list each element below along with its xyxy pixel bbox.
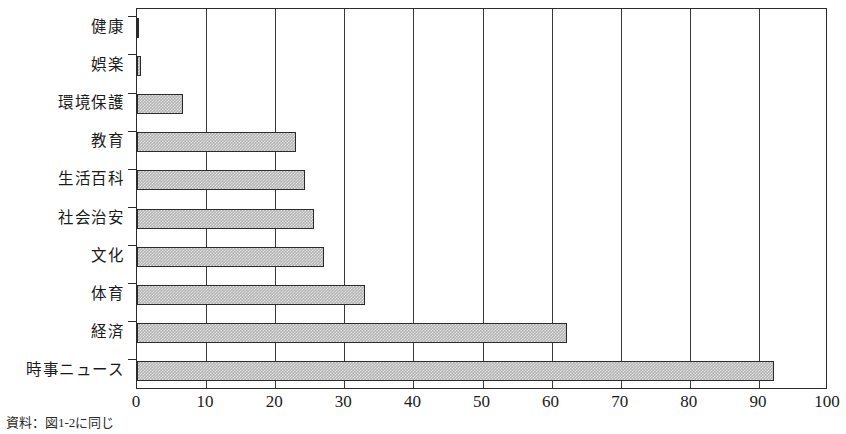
category-tick: [128, 245, 136, 246]
bar-chart-figure: 健康娯楽環境保護教育生活百科社会治安文化体育経済時事ニュース 010203040…: [0, 0, 846, 434]
category-label-時事ニュース: 時事ニュース: [0, 362, 124, 378]
category-label-体育: 体育: [0, 286, 124, 302]
category-tick: [128, 359, 136, 360]
category-label-文化: 文化: [0, 248, 124, 264]
plot-area: [136, 8, 827, 389]
bar-体育: [137, 285, 365, 305]
category-axis-labels: 健康娯楽環境保護教育生活百科社会治安文化体育経済時事ニュース: [0, 8, 124, 389]
bar-時事ニュース: [137, 361, 774, 381]
source-note: 資料：図1-2に同じ: [6, 415, 114, 429]
bar-環境保護: [137, 94, 183, 114]
category-tick: [128, 93, 136, 94]
xtick-label-10: 10: [197, 392, 214, 412]
xtick-label-60: 60: [542, 392, 559, 412]
xtick-label-80: 80: [680, 392, 697, 412]
category-tick: [128, 207, 136, 208]
bar-row: [137, 314, 826, 352]
bar-row: [137, 200, 826, 238]
bar-社会治安: [137, 209, 314, 229]
category-label-環境保護: 環境保護: [0, 95, 124, 111]
bar-娯楽: [137, 56, 141, 76]
bar-row: [137, 276, 826, 314]
category-tick: [128, 321, 136, 322]
category-tick: [128, 54, 136, 55]
bar-row: [137, 47, 826, 85]
xtick-label-40: 40: [404, 392, 421, 412]
category-label-教育: 教育: [0, 133, 124, 149]
category-label-経済: 経済: [0, 324, 124, 340]
bars-container: [137, 9, 826, 388]
category-label-健康: 健康: [0, 19, 124, 35]
bar-健康: [137, 18, 139, 38]
bar-row: [137, 85, 826, 123]
bar-row: [137, 9, 826, 47]
bar-row: [137, 123, 826, 161]
xtick-label-0: 0: [132, 392, 141, 412]
category-label-娯楽: 娯楽: [0, 57, 124, 73]
bar-経済: [137, 323, 567, 343]
bar-row: [137, 238, 826, 276]
category-tick: [128, 16, 136, 17]
category-tick: [128, 283, 136, 284]
xtick-label-50: 50: [473, 392, 490, 412]
bar-row: [137, 352, 826, 390]
bar-文化: [137, 247, 324, 267]
category-label-社会治安: 社会治安: [0, 210, 124, 226]
xtick-label-30: 30: [335, 392, 352, 412]
xtick-label-90: 90: [749, 392, 766, 412]
bar-生活百科: [137, 170, 305, 190]
xtick-label-100: 100: [814, 392, 840, 412]
bar-教育: [137, 132, 296, 152]
category-tick: [128, 169, 136, 170]
category-tick: [128, 131, 136, 132]
value-axis-labels: 0102030405060708090100: [0, 392, 846, 416]
bar-row: [137, 161, 826, 199]
category-label-生活百科: 生活百科: [0, 171, 124, 187]
xtick-label-70: 70: [611, 392, 628, 412]
xtick-label-20: 20: [266, 392, 283, 412]
